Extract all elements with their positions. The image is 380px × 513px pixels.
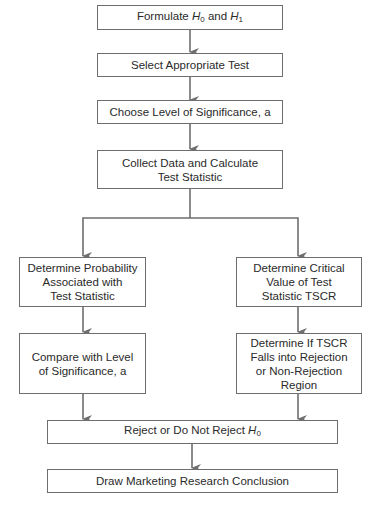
node-determine-critical: Determine Critical Value of Test Statist…	[236, 257, 362, 307]
node-formulate-hypotheses: Formulate H0 and H1	[97, 5, 283, 30]
node-draw-conclusion: Draw Marketing Research Conclusion	[47, 469, 338, 493]
node-label: Choose Level of Significance, a	[109, 105, 270, 119]
text: Reject or Do Not Reject	[124, 424, 248, 436]
node-collect-data: Collect Data and Calculate Test Statisti…	[97, 150, 283, 189]
h1-subscript: 1	[239, 15, 243, 24]
node-select-test: Select Appropriate Test	[97, 53, 283, 77]
h0-symbol: H	[192, 10, 200, 22]
node-label-line: Compare with Level	[32, 350, 134, 364]
node-label-line: Determine Critical	[253, 261, 344, 275]
h0-subscript: 0	[256, 429, 260, 438]
node-label-line: Associated with	[43, 275, 123, 289]
text: Formulate	[137, 10, 192, 22]
node-label-line: of Significance, a	[39, 364, 127, 378]
h1-symbol: H	[230, 10, 238, 22]
node-determine-falls: Determine If TSCR Falls into Rejection o…	[236, 333, 362, 394]
node-determine-probability: Determine Probability Associated with Te…	[19, 257, 146, 307]
node-compare-level: Compare with Level of Significance, a	[19, 333, 146, 394]
node-reject-decision: Reject or Do Not Reject H0	[47, 420, 338, 444]
node-label-line: Region	[281, 378, 317, 392]
node-label-line: or Non-Rejection	[256, 364, 342, 378]
node-label-line: Determine If TSCR	[251, 336, 348, 350]
branch-left-arrow	[83, 218, 190, 256]
node-label-line: Test Statistic	[50, 289, 115, 303]
node-label: Formulate H0 and H1	[137, 9, 243, 27]
node-label-line: Statistic TSCR	[262, 289, 337, 303]
branch-right-arrow	[190, 218, 298, 256]
node-label: Draw Marketing Research Conclusion	[96, 474, 289, 488]
node-choose-level: Choose Level of Significance, a	[97, 100, 283, 124]
node-label-line: Test Statistic	[158, 170, 223, 184]
node-label: Reject or Do Not Reject H0	[124, 423, 261, 441]
node-label-line: Determine Probability	[28, 261, 138, 275]
text: and	[205, 10, 231, 22]
node-label: Select Appropriate Test	[131, 58, 249, 72]
node-label-line: Collect Data and Calculate	[122, 156, 258, 170]
node-label-line: Value of Test	[266, 275, 331, 289]
node-label-line: Falls into Rejection	[250, 350, 347, 364]
